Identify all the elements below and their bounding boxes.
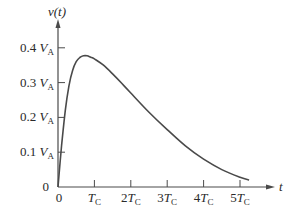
x-tick-label: 0 — [56, 190, 63, 205]
x-tick-label: 2TC — [121, 190, 141, 207]
ticks — [58, 48, 240, 187]
axes — [56, 19, 276, 190]
x-tick-label: 5TC — [230, 190, 250, 207]
x-axis-title: t — [279, 179, 283, 194]
y-axis-arrow-icon — [56, 19, 61, 28]
tick-labels: 00.1 VA0.2 VA0.3 VA0.4 VA0TC2TC3TC4TC5TC — [20, 40, 250, 207]
y-axis-title: v(t) — [48, 4, 66, 19]
y-tick-label: 0.3 VA — [20, 75, 54, 92]
voltage-curve — [58, 56, 249, 187]
x-axis-arrow-icon — [266, 185, 275, 190]
y-tick-label: 0.1 VA — [20, 144, 54, 161]
y-tick-label: 0.2 VA — [20, 109, 54, 126]
y-tick-label: 0.4 VA — [20, 40, 54, 57]
x-tick-label: 4TC — [194, 190, 214, 207]
chart: 00.1 VA0.2 VA0.3 VA0.4 VA0TC2TC3TC4TC5TC… — [0, 0, 295, 211]
x-tick-label: 3TC — [157, 190, 177, 207]
x-tick-label: TC — [88, 190, 101, 207]
y-tick-label: 0 — [43, 179, 50, 194]
